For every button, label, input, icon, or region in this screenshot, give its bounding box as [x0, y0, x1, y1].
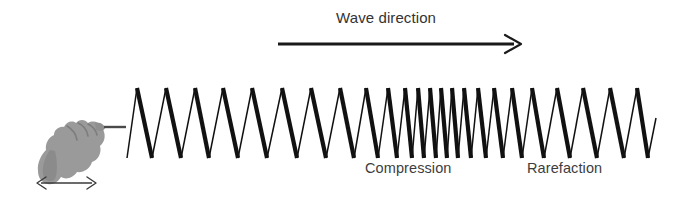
- spring-upstroke: [597, 88, 610, 158]
- spring-coil: [104, 88, 656, 158]
- spring-upstroke: [648, 118, 656, 158]
- spring-upstroke: [181, 88, 195, 158]
- spring-downstroke: [583, 88, 597, 158]
- spring-upstroke: [522, 88, 532, 158]
- spring-upstroke: [209, 88, 223, 158]
- spring-downstroke: [441, 88, 447, 158]
- hand-icon: [38, 120, 105, 184]
- spring-upstroke: [297, 88, 311, 158]
- spring-upstroke: [354, 88, 366, 158]
- hand-thumb: [95, 123, 105, 131]
- spring-upstroke: [486, 88, 494, 158]
- spring-downstroke: [282, 88, 297, 158]
- spring-downstroke: [223, 88, 238, 158]
- spring-upstroke: [397, 88, 405, 158]
- spring-upstroke: [238, 88, 252, 158]
- spring-downstroke: [405, 88, 412, 158]
- spring-downstroke: [464, 88, 471, 158]
- spring-downstroke: [557, 88, 570, 158]
- spring-upstroke: [267, 88, 282, 158]
- wave-direction-arrow-icon: [278, 35, 521, 53]
- spring-upstroke: [378, 88, 388, 158]
- spring-upstroke: [326, 88, 340, 158]
- spring-upstroke: [127, 88, 137, 158]
- spring-downstroke: [137, 88, 152, 158]
- spring-upstroke: [152, 88, 166, 158]
- spring-downstroke: [252, 88, 267, 158]
- spring-upstroke: [570, 88, 583, 158]
- spring-downstroke: [195, 88, 209, 158]
- spring-downstroke: [311, 88, 326, 158]
- spring-downstroke: [340, 88, 354, 158]
- spring-downstroke: [637, 88, 648, 158]
- spring-downstroke: [610, 88, 624, 158]
- spring-downstroke: [452, 88, 458, 158]
- spring-downstroke: [430, 88, 436, 158]
- spring-downstroke: [478, 88, 486, 158]
- spring-downstroke: [388, 88, 397, 158]
- spring-downstroke: [512, 88, 522, 158]
- longitudinal-wave-figure: Wave direction Compression Rarefaction: [0, 0, 696, 202]
- spring-upstroke: [503, 88, 512, 158]
- spring-upstroke: [544, 88, 557, 158]
- diagram-canvas: [0, 0, 696, 202]
- spring-downstroke: [166, 88, 181, 158]
- spring-upstroke: [624, 88, 637, 158]
- spring-downstroke: [366, 88, 378, 158]
- spring-downstroke: [494, 88, 503, 158]
- spring-downstroke: [418, 88, 424, 158]
- spring-downstroke: [532, 88, 544, 158]
